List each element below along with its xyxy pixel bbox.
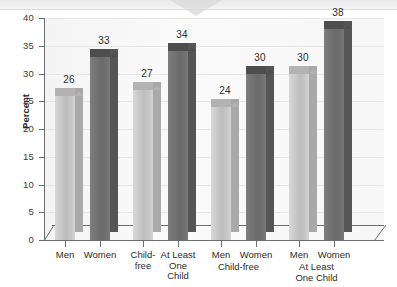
bar-top-face xyxy=(289,66,309,74)
bar-chart: Percent 403530252015105026Men33Women27Ch… xyxy=(0,10,397,287)
bar-side-face xyxy=(344,21,352,232)
x-axis-category-label: Women xyxy=(234,250,278,261)
x-axis-tick xyxy=(256,241,257,247)
x-axis-tick xyxy=(143,241,144,247)
x-axis-category-line: Women xyxy=(312,250,356,261)
x-axis-category-line: Women xyxy=(234,250,278,261)
bar-side-face xyxy=(75,88,83,232)
bar-front-face xyxy=(55,96,75,240)
bar-side-face xyxy=(188,43,196,232)
bar-column xyxy=(211,99,231,240)
x-axis-category-label: Women xyxy=(78,250,122,261)
y-axis-tick xyxy=(39,185,45,186)
y-axis-tick xyxy=(39,101,45,102)
x-axis-tick xyxy=(100,241,101,247)
x-axis-group-label: Child-free xyxy=(199,262,279,273)
bar-column xyxy=(90,49,110,240)
x-axis-tick xyxy=(299,241,300,247)
bar-front-face xyxy=(324,29,344,240)
bar-value-label: 38 xyxy=(320,7,356,18)
bar-top-face xyxy=(90,49,110,57)
y-axis-label: 35 xyxy=(12,40,34,51)
x-axis-tick xyxy=(334,241,335,247)
x-axis-tick xyxy=(178,241,179,247)
bar-column xyxy=(168,43,188,240)
y-axis-tick xyxy=(39,74,45,75)
bar-value-label: 26 xyxy=(51,74,87,85)
y-axis-tick xyxy=(39,129,45,130)
bar-front-face xyxy=(211,107,231,240)
x-axis-line xyxy=(44,240,384,241)
bar-value-label: 24 xyxy=(207,85,243,96)
y-axis-label: 15 xyxy=(12,151,34,162)
bar-column xyxy=(289,66,309,241)
x-axis-tick xyxy=(65,241,66,247)
x-axis-category-line: Child xyxy=(156,271,200,282)
bar-side-face xyxy=(309,66,317,233)
y-axis-label: 40 xyxy=(12,12,34,23)
bar-top-face xyxy=(211,99,231,107)
y-axis-label: 0 xyxy=(12,234,34,245)
y-axis-label: 5 xyxy=(12,206,34,217)
bar-value-label: 30 xyxy=(242,52,278,63)
bar-front-face xyxy=(168,51,188,240)
bar-side-face xyxy=(153,82,161,232)
y-axis-label: 20 xyxy=(12,123,34,134)
bar-value-label: 33 xyxy=(86,35,122,46)
bar-column xyxy=(133,82,153,240)
bar-value-label: 30 xyxy=(285,52,321,63)
y-axis-tick xyxy=(39,46,45,47)
x-axis-tick xyxy=(221,241,222,247)
x-axis-category-label: Women xyxy=(312,250,356,261)
bar-side-face xyxy=(266,66,274,233)
floor-left-edge xyxy=(44,225,54,241)
y-axis-tick xyxy=(39,212,45,213)
gridline xyxy=(44,18,384,19)
y-axis-tick xyxy=(39,18,45,19)
x-axis-group-label: At LeastOne Child xyxy=(277,262,357,283)
x-axis-group-line: One Child xyxy=(277,273,357,284)
floor-right-edge xyxy=(374,225,386,241)
bar-front-face xyxy=(246,74,266,241)
bar-top-face xyxy=(55,88,75,96)
x-axis-category-line: At Least xyxy=(156,250,200,261)
y-axis-tick xyxy=(39,240,45,241)
bar-front-face xyxy=(90,57,110,240)
bar-top-face xyxy=(133,82,153,90)
bar-column xyxy=(55,88,75,240)
bar-top-face xyxy=(246,66,266,74)
bar-top-face xyxy=(324,21,344,29)
bar-value-label: 27 xyxy=(129,68,165,79)
bar-front-face xyxy=(133,90,153,240)
bar-front-face xyxy=(289,74,309,241)
y-axis-tick xyxy=(39,157,45,158)
y-axis-label: 25 xyxy=(12,95,34,106)
bar-top-face xyxy=(168,43,188,51)
y-axis-label: 10 xyxy=(12,179,34,190)
bar-side-face xyxy=(231,99,239,232)
bar-column xyxy=(324,21,344,240)
bar-side-face xyxy=(110,49,118,232)
y-axis-label: 30 xyxy=(12,68,34,79)
x-axis-category-line: Women xyxy=(78,250,122,261)
bar-column xyxy=(246,66,266,241)
bar-value-label: 34 xyxy=(164,29,200,40)
x-axis-category-label: At LeastOneChild xyxy=(156,250,200,282)
x-axis-group-line: Child-free xyxy=(199,262,279,273)
x-axis-group-line: At Least xyxy=(277,262,357,273)
